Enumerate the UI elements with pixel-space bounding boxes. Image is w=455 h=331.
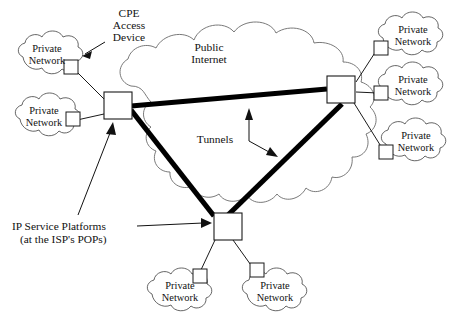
cpe-label-line3: Device xyxy=(113,31,145,43)
private-network-label-right-middle-line2: Network xyxy=(395,86,432,97)
private-network-label-left-top-line2: Network xyxy=(29,55,66,66)
ip-service-leader-vertical xyxy=(78,133,110,215)
ip-service-arrowhead-up xyxy=(106,122,116,135)
access-link-bottom-left xyxy=(200,240,215,272)
platform-node-left xyxy=(104,92,132,119)
private-network-label-right-top-line1: Private xyxy=(398,24,428,35)
network-diagram: CPE Access Device Public Internet Tunnel… xyxy=(0,0,455,331)
private-network-label-right-bottom-line1: Private xyxy=(401,130,431,141)
public-internet-label-line2: Internet xyxy=(191,53,227,65)
access-link-left-top xyxy=(75,70,104,99)
cpe-box-left-bottom xyxy=(66,112,80,126)
ip-service-arrowhead-right xyxy=(201,218,212,228)
cpe-box-left-top xyxy=(64,60,78,74)
cpe-box-right-top xyxy=(374,41,388,55)
cpe-box-bottom-right xyxy=(250,263,264,277)
private-network-label-bottom-left-line1: Private xyxy=(165,280,195,291)
public-internet-label-line1: Public xyxy=(194,41,223,53)
ip-service-leader-horizontal xyxy=(137,223,203,226)
cpe-box-right-bottom xyxy=(379,145,393,159)
private-network-label-right-middle-line1: Private xyxy=(398,74,428,85)
private-network-label-bottom-left-line2: Network xyxy=(162,292,199,303)
platform-node-bottom xyxy=(214,213,242,240)
private-network-label-bottom-right-line1: Private xyxy=(260,280,290,291)
tunnels-label: Tunnels xyxy=(197,133,234,145)
private-network-label-bottom-right-line2: Network xyxy=(257,292,294,303)
private-network-label-right-bottom-line2: Network xyxy=(398,142,435,153)
cpe-box-bottom-left xyxy=(193,269,207,283)
private-network-label-right-top-line2: Network xyxy=(395,36,432,47)
platform-node-right xyxy=(327,76,355,103)
cpe-box-right-middle xyxy=(374,86,388,100)
private-network-label-left-top-line1: Private xyxy=(32,43,62,54)
private-network-label-left-bottom-line2: Network xyxy=(26,117,63,128)
cpe-annotation-leader xyxy=(85,42,105,54)
diagram-canvas: CPE Access Device Public Internet Tunnel… xyxy=(0,0,455,331)
ip-service-label-line1: IP Service Platforms xyxy=(12,220,106,232)
cpe-annotation-arrowhead xyxy=(82,51,92,59)
access-link-left-bottom xyxy=(77,114,104,120)
cpe-label-line2: Access xyxy=(113,19,146,31)
private-network-label-left-bottom-line1: Private xyxy=(29,105,59,116)
cpe-label-line1: CPE xyxy=(119,7,140,19)
ip-service-label-line2: (at the ISP's POPs) xyxy=(20,233,107,246)
